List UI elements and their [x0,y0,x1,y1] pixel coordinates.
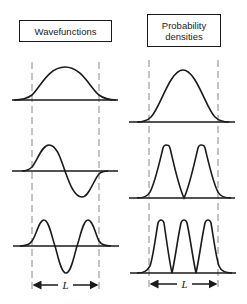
right-length-label: L [180,278,187,290]
probability-density-n2 [137,145,231,198]
curves-canvas: L L [0,0,247,304]
probability-density-n1 [137,70,229,122]
right-baselines [129,122,236,273]
left-length-indicator: L [34,279,97,291]
left-length-label: L [61,279,68,291]
quantum-well-diagram: Wavefunctions Probability densities [0,0,247,304]
right-well-boundaries [149,60,218,290]
left-well-boundaries [32,62,99,290]
right-length-indicator: L [151,278,216,290]
wavefunction-n1 [14,67,116,100]
